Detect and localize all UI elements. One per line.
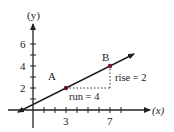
x-tick-label-7: 7 xyxy=(107,115,113,127)
y-axis-label: (y) xyxy=(27,9,40,22)
point-a-label: A xyxy=(48,70,56,82)
x-axis-label: (x) xyxy=(152,104,165,117)
run-label: run = 4 xyxy=(69,91,100,102)
rise-label: rise = 2 xyxy=(115,72,147,83)
y-tick-label-2: 2 xyxy=(20,82,26,94)
point-b xyxy=(108,64,112,68)
point-a xyxy=(64,86,68,90)
y-tick-label-6: 6 xyxy=(20,38,26,50)
point-b-label: B xyxy=(102,51,109,63)
y-axis xyxy=(30,24,36,128)
y-tick-label-4: 4 xyxy=(20,60,26,72)
slope-line xyxy=(18,54,134,112)
slope-diagram: (y) (x) 6 4 2 3 7 A B run = 4 rise = 2 xyxy=(0,0,174,132)
diagram-svg: (y) (x) 6 4 2 3 7 A B run = 4 rise = 2 xyxy=(0,0,174,132)
x-tick-label-3: 3 xyxy=(63,115,69,127)
x-axis xyxy=(8,107,150,113)
